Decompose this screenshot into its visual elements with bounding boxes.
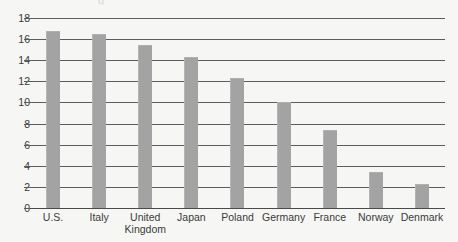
bar-column — [122, 18, 168, 208]
plot-area — [30, 18, 445, 208]
bar-chart: g 024681012141618 U.S.ItalyUnited Kingdo… — [0, 0, 458, 242]
x-tick-label: Italy — [90, 211, 109, 223]
gridline-0 — [30, 208, 445, 209]
x-tick-label: Norway — [358, 211, 394, 223]
bar-column — [214, 18, 260, 208]
bar-column — [168, 18, 214, 208]
bar — [415, 184, 429, 208]
bar — [369, 172, 383, 208]
bar-column — [307, 18, 353, 208]
x-tick-label: Poland — [221, 211, 254, 223]
x-tick-label: U.S. — [43, 211, 63, 223]
x-tick-label: Japan — [177, 211, 206, 223]
bar-column — [399, 18, 445, 208]
clipped-title-artifact: g — [98, 0, 112, 5]
y-axis: 024681012141618 — [0, 18, 30, 208]
bar-column — [30, 18, 76, 208]
x-tick-label: Germany — [262, 211, 305, 223]
bar-column — [76, 18, 122, 208]
bar — [46, 31, 60, 208]
x-tick-label: France — [313, 211, 346, 223]
bar — [323, 130, 337, 208]
bar — [184, 57, 198, 208]
bar — [92, 34, 106, 208]
bar — [277, 102, 291, 208]
bar — [230, 78, 244, 208]
x-tick-label: United Kingdom — [125, 211, 166, 235]
bar — [138, 45, 152, 208]
x-axis: U.S.ItalyUnited KingdomJapanPolandGerman… — [30, 211, 445, 241]
x-tick-label: Denmark — [401, 211, 444, 223]
bar-column — [261, 18, 307, 208]
bar-column — [353, 18, 399, 208]
